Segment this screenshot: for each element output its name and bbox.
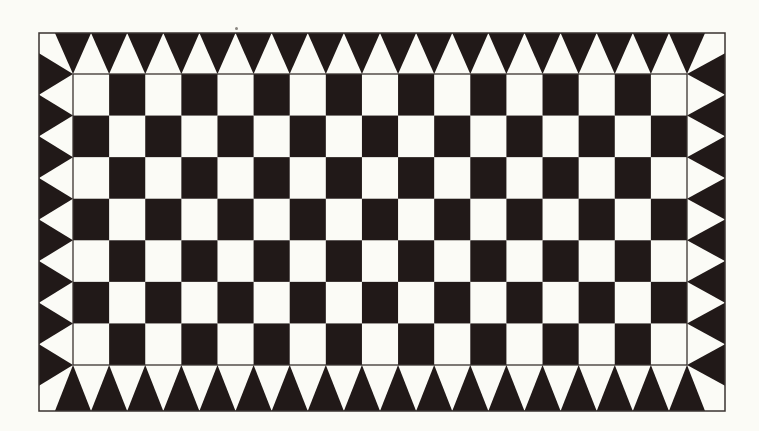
dark-cell [109, 240, 145, 282]
dark-cell [290, 282, 326, 324]
dark-cell [579, 282, 615, 324]
dark-cell [145, 199, 181, 241]
dark-cell [73, 282, 109, 324]
dark-cell [326, 323, 362, 365]
dark-cell [398, 240, 434, 282]
dark-cell [254, 157, 290, 199]
dark-cell [579, 199, 615, 241]
dark-cell [217, 199, 253, 241]
dark-cell [109, 74, 145, 116]
dark-cell [73, 199, 109, 241]
dark-cell [109, 157, 145, 199]
dark-cell [109, 323, 145, 365]
dark-cell [651, 116, 687, 158]
dark-cell [615, 323, 651, 365]
dark-cell [181, 240, 217, 282]
dark-cell [362, 116, 398, 158]
dark-cell [615, 240, 651, 282]
dark-cell [470, 323, 506, 365]
dark-cell [579, 116, 615, 158]
dark-cell [362, 199, 398, 241]
dark-cell [290, 199, 326, 241]
dark-cell [181, 157, 217, 199]
dark-cell [543, 74, 579, 116]
dark-cell [470, 157, 506, 199]
dark-cell [398, 323, 434, 365]
dark-cell [470, 240, 506, 282]
dark-cell [398, 74, 434, 116]
dark-cell [181, 74, 217, 116]
dark-cell [651, 199, 687, 241]
dark-cell [145, 282, 181, 324]
dark-cell [615, 74, 651, 116]
dark-cell [543, 157, 579, 199]
dark-cell [362, 282, 398, 324]
dark-cell [73, 116, 109, 158]
dark-cell [217, 282, 253, 324]
dark-cell [470, 74, 506, 116]
dark-cell [290, 116, 326, 158]
checker-grid [73, 74, 687, 365]
dark-cell [651, 282, 687, 324]
dark-cell [434, 199, 470, 241]
dark-cell [543, 240, 579, 282]
dark-cell [181, 323, 217, 365]
dark-cell [326, 74, 362, 116]
dark-cell [254, 74, 290, 116]
dark-cell [615, 157, 651, 199]
scan-speck [235, 27, 238, 30]
dark-cell [506, 282, 542, 324]
dark-cell [254, 240, 290, 282]
dark-cell [506, 199, 542, 241]
dark-cell [434, 282, 470, 324]
dark-cell [543, 323, 579, 365]
checkerboard-pattern [0, 0, 759, 431]
dark-cell [217, 116, 253, 158]
dark-cell [434, 116, 470, 158]
dark-cell [326, 157, 362, 199]
dark-cell [145, 116, 181, 158]
dark-cell [506, 116, 542, 158]
dark-cell [254, 323, 290, 365]
dark-cell [398, 157, 434, 199]
dark-cell [326, 240, 362, 282]
